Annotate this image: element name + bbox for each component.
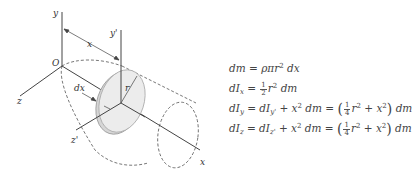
eq-term: dm bbox=[229, 62, 246, 74]
eq-term: d bbox=[229, 102, 236, 114]
eq-term: dx bbox=[287, 62, 300, 74]
eq-plus: + bbox=[361, 102, 376, 114]
x-axis-label: x bbox=[200, 157, 205, 167]
equation-dIy: dIy = dIy' + x2 dm = (14r2 + x2) dm bbox=[229, 98, 412, 118]
eq-exponent: 2 bbox=[298, 102, 302, 110]
eq-exponent: 2 bbox=[279, 62, 283, 70]
eq-term: dm bbox=[396, 102, 412, 114]
cylinder-moment-of-inertia-diagram: y y' x O z dx r z' x bbox=[0, 0, 210, 177]
eq-paren: ) bbox=[387, 101, 392, 117]
eq-sign: = bbox=[244, 102, 259, 114]
eq-term: dm bbox=[305, 122, 322, 134]
eq-plus: + bbox=[360, 122, 375, 134]
fraction-quarter: 14 bbox=[344, 102, 350, 117]
eq-paren: ) bbox=[386, 121, 391, 137]
z-axis bbox=[20, 66, 62, 96]
origin-label: O bbox=[52, 58, 60, 68]
eq-plus: + bbox=[276, 102, 291, 114]
equation-dm: dm = ρπr2 dx bbox=[229, 58, 412, 78]
eq-plus: + bbox=[276, 122, 291, 134]
equation-dIz: dIz = dIz' + x2 dm = (14r2 + x2) dm bbox=[229, 118, 412, 138]
equation-dIx: dIx = 12r2 dm bbox=[229, 78, 412, 98]
eq-exponent: 2 bbox=[297, 122, 301, 130]
eq-term: d bbox=[229, 82, 236, 94]
z-prime-axis-label: z' bbox=[70, 135, 78, 145]
eq-sign: = bbox=[322, 102, 337, 114]
y-axis-label: y bbox=[52, 8, 59, 18]
eq-term: dm bbox=[281, 82, 298, 94]
y-prime-axis-label: y' bbox=[109, 28, 118, 38]
equations-block: dm = ρπr2 dx dIx = 12r2 dm dIy = dIy' + … bbox=[229, 58, 412, 138]
x-distance-label: x bbox=[87, 39, 92, 49]
eq-term: d bbox=[259, 122, 266, 134]
fraction-quarter: 14 bbox=[343, 122, 349, 137]
r-label: r bbox=[125, 83, 130, 93]
z-axis-label: z bbox=[16, 96, 22, 106]
eq-term: d bbox=[229, 122, 236, 134]
fraction-half: 12 bbox=[260, 82, 266, 97]
eq-sign: = bbox=[244, 82, 259, 94]
eq-term: ρπ bbox=[261, 62, 274, 74]
eq-sign: = bbox=[246, 62, 261, 74]
eq-paren: ( bbox=[338, 101, 343, 117]
eq-sign: = bbox=[322, 122, 337, 134]
eq-term: dm bbox=[395, 122, 412, 134]
eq-sign: = bbox=[244, 122, 259, 134]
eq-exponent: 2 bbox=[273, 82, 277, 90]
eq-term: dm bbox=[305, 102, 322, 114]
dx-label: dx bbox=[74, 83, 85, 93]
eq-paren: ( bbox=[337, 121, 342, 137]
